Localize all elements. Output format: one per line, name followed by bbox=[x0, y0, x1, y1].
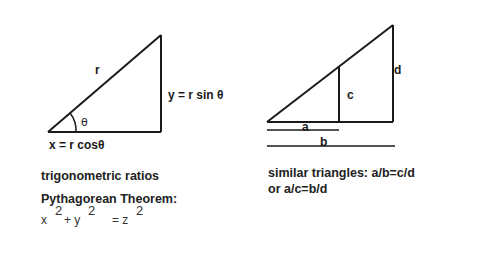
similar-triangles bbox=[267, 25, 395, 146]
equation-y-exponent: 2 bbox=[88, 204, 95, 217]
big-hypotenuse-line bbox=[267, 25, 393, 122]
equation-plus-y: + y bbox=[64, 214, 80, 226]
side-c-label: c bbox=[347, 89, 354, 101]
hypotenuse-label: r bbox=[95, 64, 100, 76]
similar-triangles-caption-line2: or a/c=b/d bbox=[268, 183, 327, 196]
adjacent-side-label: x = r cosθ bbox=[49, 139, 105, 151]
segment-a-label: a bbox=[302, 121, 309, 133]
hypotenuse-line bbox=[48, 35, 161, 132]
similar-triangles-caption-line1: similar triangles: a/b=c/d bbox=[268, 167, 415, 180]
opposite-side-label: y = r sin θ bbox=[168, 89, 224, 101]
trig-ratios-caption: trigonometric ratios bbox=[41, 170, 159, 183]
trig-triangle bbox=[48, 35, 161, 132]
equation-x-exponent: 2 bbox=[55, 204, 62, 217]
side-d-label: d bbox=[394, 64, 401, 76]
equation-equals-z: = z bbox=[112, 214, 128, 226]
equation-x: x bbox=[41, 214, 47, 226]
angle-theta-label: θ bbox=[81, 117, 88, 128]
angle-arc bbox=[70, 113, 76, 132]
segment-b-label: b bbox=[320, 136, 327, 148]
equation-z-exponent: 2 bbox=[136, 204, 143, 217]
